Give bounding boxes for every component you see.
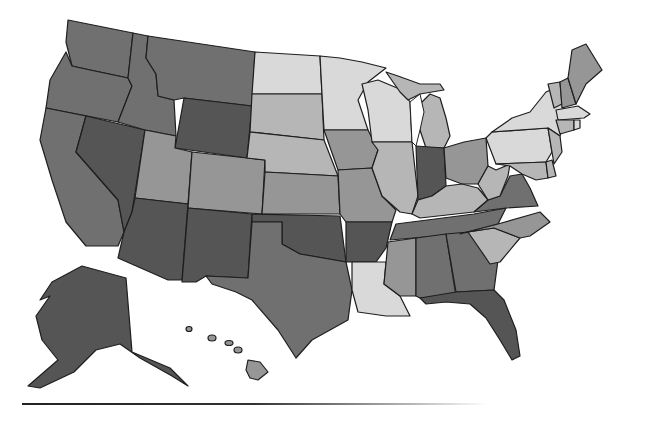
- state-mt: [146, 36, 255, 106]
- state-ms: [384, 238, 416, 296]
- state-nm: [182, 208, 252, 282]
- state-ak: [28, 266, 188, 388]
- us-choropleth-map: [0, 0, 650, 433]
- state-pa: [486, 128, 552, 164]
- state-fl: [420, 290, 520, 360]
- state-wy: [175, 98, 252, 158]
- map-canvas: [0, 0, 650, 433]
- hawaii-island-3: [225, 341, 233, 346]
- lake-lake-michigan: [410, 94, 424, 146]
- state-ri: [574, 120, 580, 130]
- hawaii-island-4: [234, 347, 242, 353]
- bottom-rule-divider: [22, 403, 487, 405]
- state-co: [188, 152, 265, 214]
- state-ks: [262, 172, 340, 214]
- state-ar: [346, 222, 392, 262]
- hawaii-island-2: [208, 335, 216, 341]
- state-mi: [420, 94, 450, 148]
- state-nd: [252, 52, 322, 94]
- hawaii-island-1: [186, 327, 192, 332]
- state-me: [568, 44, 602, 104]
- state-hi: [246, 360, 268, 380]
